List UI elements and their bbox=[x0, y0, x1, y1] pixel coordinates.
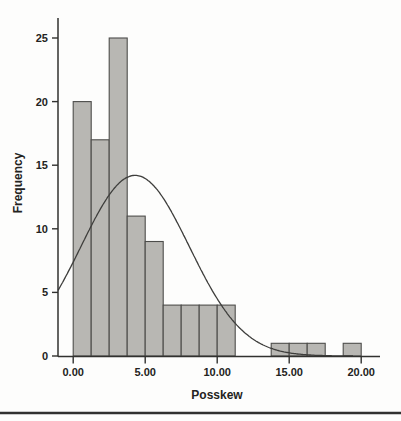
y-tick-label: 15 bbox=[36, 159, 48, 171]
x-axis-ticks: 0.005.0010.0015.0020.00 bbox=[62, 357, 374, 379]
y-axis-label: Frequency bbox=[11, 152, 25, 213]
histogram-bar bbox=[163, 305, 181, 356]
y-tick-label: 25 bbox=[36, 32, 48, 44]
histogram-chart: 0510152025 0.005.0010.0015.0020.00 Frequ… bbox=[0, 0, 401, 421]
histogram-bar bbox=[73, 102, 91, 356]
x-tick-label: 15.00 bbox=[275, 366, 303, 378]
histogram-bar bbox=[91, 140, 109, 356]
histogram-bar bbox=[343, 343, 361, 356]
histogram-bar bbox=[127, 216, 145, 356]
histogram-bar bbox=[109, 38, 127, 356]
x-axis-label: Posskew bbox=[191, 388, 243, 402]
x-tick-label: 0.00 bbox=[62, 366, 83, 378]
x-tick-label: 10.00 bbox=[203, 366, 231, 378]
chart-page: 0510152025 0.005.0010.0015.0020.00 Frequ… bbox=[0, 0, 401, 421]
y-tick-label: 20 bbox=[36, 96, 48, 108]
y-tick-label: 10 bbox=[36, 223, 48, 235]
histogram-bar bbox=[181, 305, 199, 356]
histogram-bars bbox=[73, 38, 361, 356]
histogram-bar bbox=[307, 343, 325, 356]
y-axis-ticks: 0510152025 bbox=[36, 32, 58, 362]
x-tick-label: 20.00 bbox=[347, 366, 375, 378]
x-tick-label: 5.00 bbox=[134, 366, 155, 378]
y-tick-label: 0 bbox=[42, 350, 48, 362]
histogram-bar bbox=[145, 242, 163, 357]
histogram-bar bbox=[199, 305, 217, 356]
y-tick-label: 5 bbox=[42, 286, 48, 298]
